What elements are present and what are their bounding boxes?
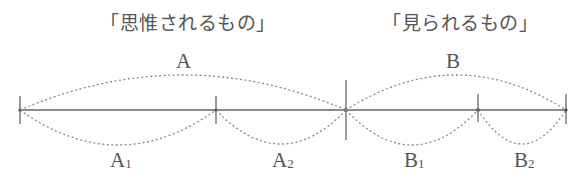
title-thought: 「思惟されるもの」 <box>100 8 276 35</box>
arc-B1 <box>346 110 478 145</box>
label-B1: B1 <box>404 148 425 173</box>
segment-diagram: 「思惟されるもの」 「見られるもの」 A B A1 A2 B1 B2 <box>0 0 569 184</box>
arc-A <box>20 75 346 110</box>
label-A2-main: A <box>272 148 287 172</box>
title-seen: 「見られるもの」 <box>382 8 538 35</box>
arc-B <box>346 75 566 110</box>
arc-A2 <box>216 110 346 144</box>
label-B2-main: B <box>514 148 528 172</box>
label-B1-main: B <box>404 148 418 172</box>
label-A-main: A <box>176 49 191 73</box>
label-A1-main: A <box>110 148 125 172</box>
label-A2-sub: 2 <box>287 156 294 171</box>
label-A: A <box>176 49 191 74</box>
label-B-main: B <box>446 49 460 73</box>
arc-A1 <box>20 110 216 145</box>
label-B: B <box>446 49 460 74</box>
label-A2: A2 <box>272 148 294 173</box>
label-B2: B2 <box>514 148 535 173</box>
label-A1: A1 <box>110 148 132 173</box>
label-B2-sub: 2 <box>528 156 535 171</box>
arc-B2 <box>478 110 566 144</box>
label-A1-sub: 1 <box>125 156 132 171</box>
label-B1-sub: 1 <box>418 156 425 171</box>
